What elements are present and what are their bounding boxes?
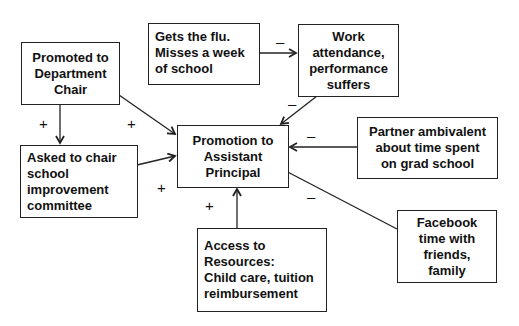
- node-text-line: Principal: [206, 165, 261, 181]
- arrow-askedchair-to-promotion: [137, 156, 175, 165]
- node-text-line: Work: [332, 29, 364, 45]
- node-text-line: Access to: [204, 238, 265, 254]
- node-text-line: Facebook: [417, 215, 478, 231]
- node-text-line: performance: [309, 61, 388, 77]
- node-text-line: committee: [27, 198, 92, 214]
- edge-sign-deptchair-askedchair: +: [39, 116, 48, 131]
- edge-sign-facebook-promotion: –: [307, 189, 315, 204]
- node-text-line: Assistant: [204, 149, 263, 165]
- edge-sign-flu-work: –: [276, 34, 284, 49]
- node-text-line: Chair: [54, 82, 87, 98]
- node-text-line: Department: [34, 66, 106, 82]
- node-text-line: school: [27, 166, 69, 182]
- node-text-line: of school: [155, 61, 213, 77]
- edge-sign-askedchair-promotion: +: [157, 180, 166, 195]
- node-text-line: Partner ambivalent: [369, 124, 486, 140]
- node-text-line: improvement: [27, 182, 109, 198]
- node-text-line: attendance,: [312, 45, 384, 61]
- node-promotion-assistant-principal: Promotion to Assistant Principal: [177, 125, 289, 188]
- node-text-line: Child care, tuition: [204, 270, 314, 286]
- arrow-work-to-promotion: [281, 96, 317, 124]
- node-text-line: friends,: [424, 247, 471, 263]
- edge-sign-partner-promotion: –: [307, 128, 315, 143]
- node-asked-to-chair: Asked to chair school improvement commit…: [20, 145, 138, 218]
- edge-sign-deptchair-promotion: +: [127, 116, 136, 131]
- node-work-attendance: Work attendance, performance suffers: [298, 24, 399, 97]
- node-facebook: Facebook time with friends, family: [397, 210, 497, 283]
- node-partner-ambivalent: Partner ambivalent about time spent on g…: [357, 117, 498, 179]
- node-text-line: time with: [419, 231, 475, 247]
- edge-sign-resources-promotion: +: [205, 198, 214, 213]
- node-text-line: Asked to chair: [27, 150, 117, 166]
- edge-sign-work-promotion: –: [288, 96, 296, 111]
- node-text-line: family: [428, 263, 466, 279]
- node-text-line: Promotion to: [193, 133, 274, 149]
- node-text-line: reimbursement: [204, 286, 298, 302]
- node-promoted-dept-chair: Promoted to Department Chair: [21, 42, 120, 105]
- node-text-line: about time spent: [375, 140, 479, 156]
- node-text-line: Gets the flu.: [155, 29, 230, 45]
- node-text-line: Misses a week: [155, 45, 245, 61]
- node-gets-flu: Gets the flu. Misses a week of school: [148, 23, 260, 85]
- node-text-line: suffers: [327, 77, 370, 93]
- node-access-resources: Access to Resources: Child care, tuition…: [197, 228, 327, 312]
- node-text-line: on grad school: [381, 156, 474, 172]
- node-text-line: Promoted to: [32, 50, 109, 66]
- node-text-line: Resources:: [204, 254, 275, 270]
